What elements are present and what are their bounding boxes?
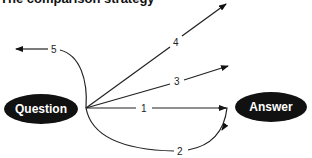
edge-label-3: 3 xyxy=(174,76,180,87)
edge-label-2: 2 xyxy=(177,146,183,157)
question-node: Question xyxy=(4,94,78,124)
edge-2: 2 xyxy=(86,108,227,157)
answer-label: Answer xyxy=(249,100,293,114)
edge-4: 4 xyxy=(86,4,226,108)
diagram-canvas: 1 2 3 4 5 Question Answer xyxy=(0,0,312,158)
edge-1: 1 xyxy=(86,103,226,114)
edge-label-1: 1 xyxy=(141,103,147,114)
edge-3: 3 xyxy=(86,66,228,108)
answer-node: Answer xyxy=(235,92,307,122)
question-label: Question xyxy=(15,102,67,116)
edge-label-5: 5 xyxy=(51,44,57,55)
edge-label-4: 4 xyxy=(173,37,179,48)
